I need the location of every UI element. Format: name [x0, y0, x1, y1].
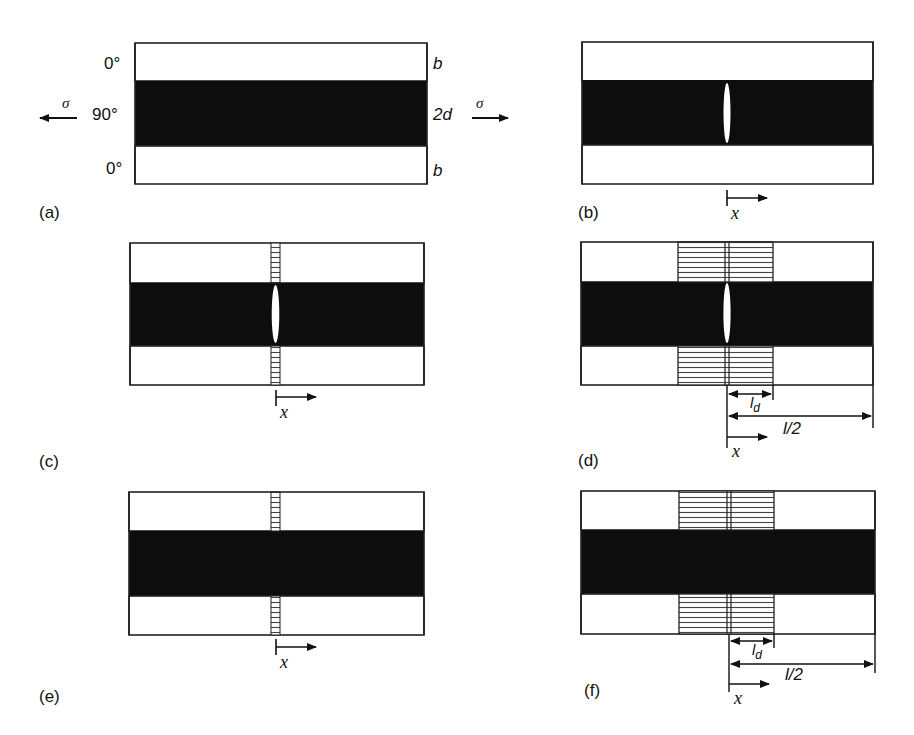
panel-label-c: (c) [39, 452, 59, 471]
panel-label-e: (e) [39, 687, 60, 706]
stress-label-left: σ [62, 95, 70, 111]
panel-label-b: (b) [578, 203, 599, 222]
delamination-zone-bottom [271, 346, 280, 385]
dim-label-bottom: b [433, 161, 442, 180]
transverse-crack [724, 83, 731, 143]
ply-90-core [581, 530, 875, 594]
transverse-crack [723, 283, 730, 343]
panel-label-a: (a) [39, 203, 60, 222]
ply-0-top [135, 43, 427, 81]
ply-label-top: 0° [104, 54, 120, 73]
laminate-crack-diagram: 0° 90° 0° b 2d b σ σ (a) x (b) x [0, 0, 914, 735]
x-label: x [731, 441, 740, 461]
ld-label: ld [750, 394, 760, 415]
ply-0-bottom [135, 146, 427, 184]
ply-90-core [135, 81, 427, 146]
dim-label-top: b [433, 54, 442, 73]
ld-label: ld [752, 641, 762, 662]
ply-90-core [129, 531, 424, 596]
dim-label-middle: 2d [432, 105, 452, 124]
half-spacing-label: l/2 [785, 665, 804, 684]
transverse-crack [272, 285, 280, 343]
panel-e: x (e) [39, 492, 424, 706]
x-label: x [279, 652, 288, 672]
panel-c: x (c) [39, 243, 424, 471]
panel-label-d: (d) [578, 451, 599, 470]
x-label: x [730, 203, 739, 223]
delamination-zone-bottom [271, 596, 280, 635]
delamination-zone-top [271, 492, 280, 531]
half-spacing-label: l/2 [783, 419, 802, 438]
panel-d: ld l/2 x (d) [578, 242, 873, 470]
x-label: x [279, 402, 288, 422]
delamination-zone-top [271, 243, 280, 283]
panel-label-f: (f) [584, 681, 600, 700]
panel-b: x (b) [578, 42, 873, 223]
panel-a: 0° 90° 0° b 2d b σ σ (a) [39, 43, 508, 222]
ply-label-bottom: 0° [106, 159, 122, 178]
stress-label-right: σ [476, 95, 484, 111]
ply-label-middle: 90° [92, 105, 118, 124]
x-label: x [733, 688, 742, 708]
panel-f: ld l/2 x (f) [581, 491, 875, 708]
